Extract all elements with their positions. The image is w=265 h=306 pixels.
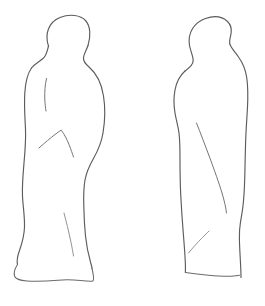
drawing-canvas: Hand-drawn line sketch of two draped sta… bbox=[0, 0, 265, 306]
sketch-svg bbox=[0, 0, 265, 306]
paper-background bbox=[0, 0, 265, 306]
